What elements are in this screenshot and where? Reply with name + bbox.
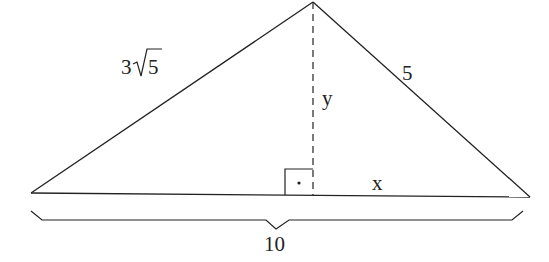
right-side xyxy=(313,2,530,197)
left-side xyxy=(31,2,313,193)
right-angle-dot xyxy=(297,181,300,184)
base-brace xyxy=(31,211,523,229)
label-left-side: 3 5 xyxy=(121,49,162,79)
triangle-diagram: 3 5 5 y x 10 xyxy=(0,0,549,262)
label-right-side: 5 xyxy=(402,61,413,85)
base xyxy=(31,193,530,197)
svg-text:3: 3 xyxy=(121,55,132,79)
label-base-total: 10 xyxy=(264,232,285,256)
svg-text:5: 5 xyxy=(148,55,159,79)
label-segment-x: x xyxy=(372,171,383,195)
label-altitude-y: y xyxy=(322,86,333,110)
